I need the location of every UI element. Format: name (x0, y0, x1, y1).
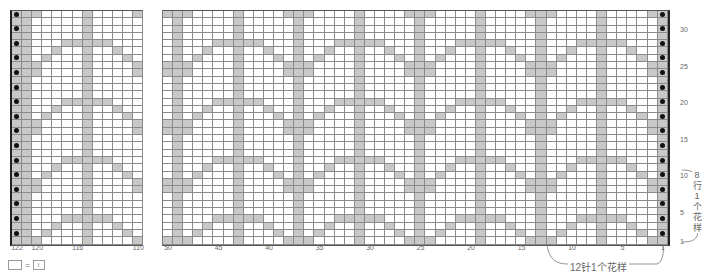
chart-cell (577, 91, 587, 98)
chart-cell (506, 47, 516, 54)
chart-cell (405, 40, 415, 47)
chart-cell (294, 99, 304, 106)
chart-cell (224, 142, 234, 149)
chart-cell (577, 47, 587, 54)
chart-cell (325, 135, 335, 142)
chart-cell (224, 91, 234, 98)
chart-cell (163, 128, 173, 135)
chart-cell (93, 77, 103, 84)
chart-cell (648, 193, 658, 200)
chart-cell (516, 223, 526, 230)
chart-cell (254, 128, 264, 135)
chart-cell (163, 106, 173, 113)
chart-cell (22, 186, 32, 193)
chart-cell (193, 215, 203, 222)
chart-cell (62, 237, 72, 244)
chart-cell (335, 142, 345, 149)
chart-cell (526, 193, 536, 200)
chart-cell (93, 201, 103, 208)
chart-cell (395, 164, 405, 171)
chart-cell (234, 33, 244, 40)
chart-cell (658, 99, 668, 106)
chart-cell (355, 18, 365, 25)
chart-cell (123, 47, 133, 54)
chart-cell (405, 135, 415, 142)
chart-cell (395, 40, 405, 47)
chart-cell (607, 179, 617, 186)
chart-cell (597, 135, 607, 142)
chart-cell (234, 150, 244, 157)
chart-cell (577, 11, 587, 18)
chart-cell (446, 150, 456, 157)
chart-cell (506, 179, 516, 186)
chart-cell (637, 77, 647, 84)
chart-cell (83, 91, 93, 98)
chart-cell (304, 106, 314, 113)
chart-cell (597, 172, 607, 179)
chart-cell (355, 157, 365, 164)
chart-cell (163, 91, 173, 98)
chart-cell (42, 237, 52, 244)
chart-cell (577, 135, 587, 142)
chart-cell (567, 135, 577, 142)
chart-cell (224, 201, 234, 208)
chart-cell (83, 11, 93, 18)
chart-cell (234, 135, 244, 142)
chart-cell (113, 77, 123, 84)
chart-cell (526, 99, 536, 106)
chart-cell (536, 128, 546, 135)
chart-cell (607, 157, 617, 164)
chart-cell (567, 106, 577, 113)
chart-cell (486, 40, 496, 47)
chart-cell (385, 208, 395, 215)
chart-cell (496, 62, 506, 69)
chart-cell (486, 77, 496, 84)
chart-cell (557, 142, 567, 149)
chart-cell (103, 47, 113, 54)
chart-cell (123, 11, 133, 18)
chart-cell (173, 215, 183, 222)
chart-cell (577, 99, 587, 106)
chart-cell (486, 26, 496, 33)
chart-cell (496, 179, 506, 186)
chart-cell (425, 230, 435, 237)
chart-cell (103, 11, 113, 18)
chart-cell (52, 215, 62, 222)
chart-cell (597, 91, 607, 98)
chart-cell (173, 26, 183, 33)
chart-cell (516, 106, 526, 113)
chart-cell (294, 179, 304, 186)
chart-cell (113, 106, 123, 113)
chart-cell (345, 157, 355, 164)
chart-cell (355, 69, 365, 76)
chart-cell (294, 91, 304, 98)
chart-cell (607, 106, 617, 113)
chart-cell (325, 230, 335, 237)
chart-cell (395, 135, 405, 142)
chart-cell (587, 230, 597, 237)
chart-cell (516, 47, 526, 54)
chart-cell (294, 164, 304, 171)
chart-cell (62, 150, 72, 157)
chart-cell (123, 135, 133, 142)
chart-cell (234, 142, 244, 149)
chart-cell (93, 150, 103, 157)
chart-cell (486, 237, 496, 244)
chart-cell (12, 106, 22, 113)
chart-cell (274, 237, 284, 244)
chart-cell (203, 113, 213, 120)
chart-cell (22, 201, 32, 208)
chart-cell (163, 55, 173, 62)
chart-cell (456, 142, 466, 149)
chart-cell (22, 120, 32, 127)
chart-cell (73, 128, 83, 135)
chart-cell (425, 193, 435, 200)
chart-cell (335, 172, 345, 179)
chart-cell (345, 77, 355, 84)
chart-cell (395, 157, 405, 164)
chart-cell (617, 84, 627, 91)
chart-cell (486, 193, 496, 200)
chart-cell (486, 186, 496, 193)
chart-cell (325, 11, 335, 18)
chart-cell (557, 157, 567, 164)
